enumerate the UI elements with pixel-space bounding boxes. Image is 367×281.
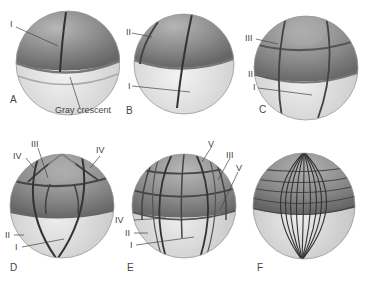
cleavage-label-c-2: II (248, 70, 253, 79)
cleavage-label-e-2: II (125, 229, 130, 238)
embryo-e-illustration (122, 140, 244, 281)
cleavage-label-e-5-top: V (208, 140, 214, 149)
embryo-d-illustration (0, 140, 122, 281)
cleavage-label-e-1: I (130, 241, 133, 250)
panel-label-c: C (259, 105, 266, 115)
cleavage-label-b-2: II (126, 28, 131, 37)
cleavage-label-e-5-right: V (236, 164, 242, 173)
panel-label-d: D (10, 263, 17, 273)
embryo-f-illustration (244, 140, 367, 281)
cleavage-label-c-3: III (245, 34, 253, 43)
cleavage-label-d-2: II (5, 231, 10, 240)
cleavage-label-d-3: III (31, 140, 39, 149)
panel-label-b: B (126, 106, 133, 116)
gray-crescent-annotation: Gray crescent (55, 106, 111, 115)
cleavage-label-d-4-right: IV (96, 146, 105, 155)
embryo-c-illustration (244, 0, 367, 140)
cleavage-label-e-4: IV (115, 216, 124, 225)
cleavage-label-d-4-left: IV (13, 152, 22, 161)
panel-label-e: E (127, 263, 134, 273)
cleavage-label-a-1: I (10, 20, 13, 29)
cleavage-label-c-1: I (253, 83, 256, 92)
cleavage-label-d-1: I (15, 243, 18, 252)
panel-a: I A Gray crescent (0, 0, 120, 140)
embryo-b-illustration (122, 0, 244, 140)
panel-f: F (244, 140, 367, 281)
panel-d: III IV IV II I D (0, 140, 122, 281)
panel-c: III II I C (244, 0, 367, 140)
embryo-a-illustration (0, 0, 120, 140)
panel-e: V III V IV II I E (122, 140, 244, 281)
panel-b: II I B (122, 0, 244, 140)
panel-label-f: F (257, 263, 263, 273)
cleavage-label-e-3: III (226, 151, 234, 160)
cleavage-label-b-1: I (128, 82, 131, 91)
panel-label-a: A (10, 95, 17, 105)
